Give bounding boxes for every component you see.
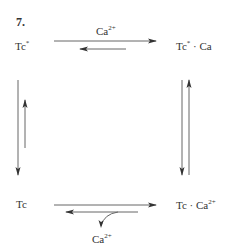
reaction-arrows [0, 0, 237, 252]
curved-arrow-icon [101, 212, 118, 226]
